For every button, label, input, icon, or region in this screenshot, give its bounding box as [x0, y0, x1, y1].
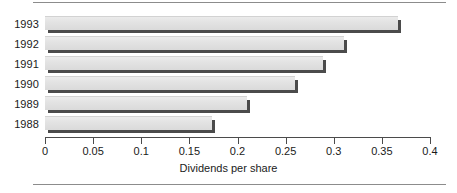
bar-row: 1992: [45, 36, 344, 52]
x-tick: [45, 138, 46, 144]
category-label-1993: 1993: [14, 18, 39, 30]
category-label-1988: 1988: [14, 118, 39, 130]
x-tick: [238, 138, 239, 144]
x-tick-label: 0: [42, 145, 48, 157]
x-tick-label: 0.2: [230, 145, 245, 157]
x-tick-label: 0.1: [134, 145, 149, 157]
x-tick: [334, 138, 335, 144]
x-tick-label: 0.3: [326, 145, 341, 157]
bar-row: 1991: [45, 56, 323, 72]
category-label-1990: 1990: [14, 78, 39, 90]
bar-1990: [45, 76, 295, 90]
bar-row: 1990: [45, 76, 295, 92]
x-tick: [189, 138, 190, 144]
bar-row: 1988: [45, 116, 212, 132]
bar-1993: [45, 16, 398, 30]
x-tick: [93, 138, 94, 144]
chart-figure: 199319921991199019891988 00.050.10.150.2…: [0, 0, 457, 193]
bar-1992: [45, 36, 344, 50]
bar-1991: [45, 56, 323, 70]
x-axis-title: Dividends per share: [0, 162, 457, 174]
x-tick: [382, 138, 383, 144]
category-label-1992: 1992: [14, 38, 39, 50]
bar-1988: [45, 116, 212, 130]
x-tick-label: 0.4: [422, 145, 437, 157]
x-tick-label: 0.35: [371, 145, 392, 157]
bar-row: 1989: [45, 96, 247, 112]
category-label-1989: 1989: [14, 98, 39, 110]
bar-row: 1993: [45, 16, 398, 32]
x-tick: [286, 138, 287, 144]
x-tick-label: 0.25: [275, 145, 296, 157]
x-tick-label: 0.15: [179, 145, 200, 157]
x-tick-label: 0.05: [82, 145, 103, 157]
x-tick: [141, 138, 142, 144]
bar-1989: [45, 96, 247, 110]
category-label-1991: 1991: [14, 58, 39, 70]
x-tick: [430, 138, 431, 144]
